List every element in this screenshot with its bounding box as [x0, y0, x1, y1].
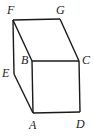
vertex-label-a: A: [28, 118, 37, 132]
edge-fg: [13, 19, 60, 20]
vertex-label-c: C: [82, 53, 91, 67]
prism-diagram: FGBCEAD: [0, 0, 94, 137]
edge-cd: [79, 61, 80, 112]
edge-ba: [32, 61, 33, 113]
vertex-label-g: G: [56, 3, 65, 17]
vertex-label-e: E: [1, 66, 10, 80]
edge-gc: [60, 19, 79, 61]
edge-ea: [14, 74, 33, 113]
edge-fe: [13, 20, 14, 74]
vertex-label-f: F: [6, 3, 15, 17]
vertex-label-d: D: [75, 117, 85, 131]
vertex-label-b: B: [21, 53, 29, 67]
edge-ad: [33, 112, 80, 113]
